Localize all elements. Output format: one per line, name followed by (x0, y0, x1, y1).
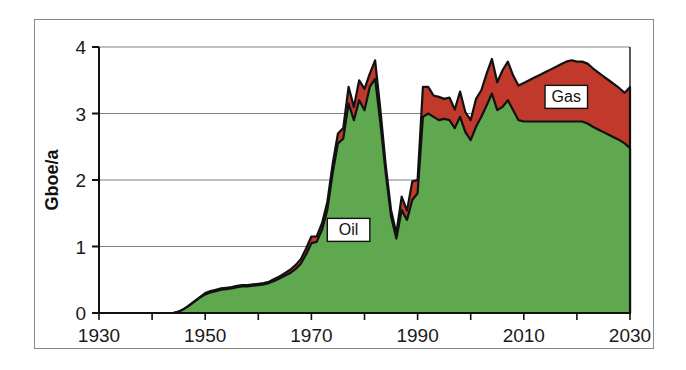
y-axis-title: Gboe/a (42, 149, 62, 211)
x-tick-label-2010: 2010 (503, 325, 545, 346)
y-tick-label-0: 0 (75, 303, 86, 324)
x-tick-label-2030: 2030 (609, 325, 651, 346)
x-axis-tick-labels: 193019501970199020102030 (78, 325, 651, 346)
x-tick-label-1970: 1970 (290, 325, 332, 346)
y-tick-label-2: 2 (75, 170, 86, 191)
oil-series-label: Oil (327, 218, 370, 241)
y-axis-ticks (92, 47, 99, 313)
y-tick-label-1: 1 (75, 237, 86, 258)
gas-series-label: Gas (545, 85, 588, 108)
oil-label-text: Oil (339, 221, 359, 238)
stacked-area-chart: 01234 193019501970199020102030 Gboe/a Oi… (0, 0, 686, 370)
y-tick-label-3: 3 (75, 104, 86, 125)
gas-label-text: Gas (552, 88, 581, 105)
y-axis-tick-labels: 01234 (75, 37, 86, 324)
y-tick-label-4: 4 (75, 37, 86, 58)
x-tick-label-1950: 1950 (184, 325, 226, 346)
x-tick-label-1990: 1990 (396, 325, 438, 346)
figure-root: 01234 193019501970199020102030 Gboe/a Oi… (0, 0, 686, 370)
x-tick-label-1930: 1930 (78, 325, 120, 346)
